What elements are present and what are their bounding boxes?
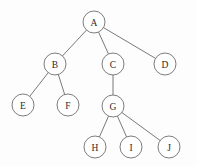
edge-layer <box>30 28 160 141</box>
tree-edge-a-b <box>62 30 86 56</box>
tree-node-d[interactable]: D <box>154 53 176 75</box>
tree-node-label-h: H <box>92 143 99 153</box>
tree-edge-g-i <box>117 116 126 137</box>
tree-node-b[interactable]: B <box>44 53 66 75</box>
tree-edge-b-f <box>58 74 64 94</box>
tree-node-label-a: A <box>91 18 98 28</box>
tree-node-e[interactable]: E <box>12 94 34 116</box>
tree-node-label-j: J <box>167 143 171 153</box>
tree-node-label-g: G <box>110 102 117 112</box>
tree-node-label-b: B <box>52 60 58 70</box>
node-layer: ABCDEFGHIJ <box>12 11 180 158</box>
tree-node-label-i: I <box>129 143 132 153</box>
tree-diagram-canvas: ABCDEFGHIJ <box>0 0 197 166</box>
tree-edge-b-e <box>30 73 48 97</box>
tree-node-h[interactable]: H <box>84 136 106 158</box>
tree-node-a[interactable]: A <box>83 11 105 33</box>
tree-node-c[interactable]: C <box>102 53 124 75</box>
tree-node-f[interactable]: F <box>57 94 79 116</box>
tree-edge-a-c <box>99 32 109 54</box>
tree-node-j[interactable]: J <box>158 136 180 158</box>
tree-node-label-d: D <box>162 60 169 70</box>
tree-node-label-f: F <box>65 101 70 111</box>
tree-diagram: ABCDEFGHIJ <box>0 0 197 166</box>
tree-node-label-c: C <box>110 60 116 70</box>
tree-edge-g-h <box>99 116 108 137</box>
tree-node-i[interactable]: I <box>120 136 142 158</box>
tree-node-g[interactable]: G <box>102 95 124 117</box>
tree-node-label-e: E <box>20 101 26 111</box>
